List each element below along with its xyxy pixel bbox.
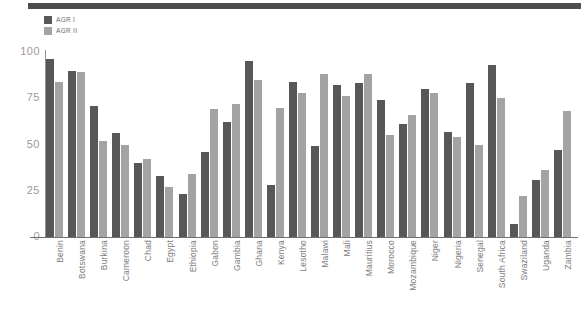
- bar-agr-1[interactable]: [112, 133, 120, 237]
- bar-agr-1[interactable]: [399, 124, 407, 237]
- x-axis-category-label: Mauritius: [364, 240, 374, 276]
- bar-group: [46, 52, 68, 237]
- bar-group: [245, 52, 267, 237]
- x-axis-category-label: Uganda: [541, 240, 551, 271]
- chart-legend: AGR I AGR II: [44, 15, 77, 35]
- bar-group: [267, 52, 289, 237]
- bar-agr-1[interactable]: [488, 65, 496, 237]
- bar-group: [179, 52, 201, 237]
- bar-agr-1[interactable]: [421, 89, 429, 237]
- legend-item-agr-1: AGR I: [44, 15, 77, 24]
- bar-agr-2[interactable]: [541, 170, 549, 237]
- bar-group: [333, 52, 355, 237]
- bar-agr-2[interactable]: [77, 72, 85, 237]
- bar-agr-2[interactable]: [563, 111, 571, 237]
- bar-agr-2[interactable]: [453, 137, 461, 237]
- x-axis-category-label: Mozambique: [408, 240, 418, 291]
- bar-groups-container: [46, 52, 576, 237]
- x-axis-category-label: Chad: [143, 240, 153, 261]
- bar-agr-2[interactable]: [143, 159, 151, 237]
- x-axis-category-label: Niger: [430, 240, 440, 261]
- bar-group: [377, 52, 399, 237]
- bar-agr-1[interactable]: [510, 224, 518, 237]
- bar-group: [289, 52, 311, 237]
- bar-agr-2[interactable]: [342, 96, 350, 237]
- bar-agr-2[interactable]: [254, 80, 262, 237]
- bar-group: [421, 52, 443, 237]
- legend-swatch-icon: [44, 27, 52, 35]
- bar-agr-2[interactable]: [497, 98, 505, 237]
- bar-group: [112, 52, 134, 237]
- y-axis-tick-label: 25: [27, 185, 40, 196]
- x-axis-category-label: Senegal: [475, 240, 485, 273]
- bar-agr-2[interactable]: [276, 108, 284, 238]
- x-axis-category-label: Ethiopia: [188, 240, 198, 272]
- bar-agr-2[interactable]: [364, 74, 372, 237]
- x-axis-category-labels: BeninBotswanaBurkinaCameroonChadEgyptEth…: [46, 240, 576, 320]
- bar-agr-2[interactable]: [430, 93, 438, 237]
- bar-agr-1[interactable]: [355, 83, 363, 237]
- bar-agr-1[interactable]: [554, 150, 562, 237]
- bar-group: [532, 52, 554, 237]
- bar-agr-1[interactable]: [267, 185, 275, 237]
- x-axis-category-label: Zambia: [563, 240, 573, 270]
- bar-agr-1[interactable]: [377, 100, 385, 237]
- bar-agr-2[interactable]: [232, 104, 240, 237]
- bar-agr-2[interactable]: [121, 145, 129, 238]
- bar-group: [90, 52, 112, 237]
- y-axis-tick-label: 100: [20, 46, 40, 57]
- bar-agr-1[interactable]: [46, 59, 54, 237]
- bar-agr-1[interactable]: [333, 85, 341, 237]
- bar-group: [223, 52, 245, 237]
- top-divider-rule: [28, 3, 581, 9]
- bar-agr-1[interactable]: [90, 106, 98, 237]
- bar-agr-2[interactable]: [408, 115, 416, 237]
- bar-agr-2[interactable]: [99, 141, 107, 237]
- bar-agr-1[interactable]: [245, 61, 253, 237]
- bar-agr-2[interactable]: [519, 196, 527, 237]
- bar-agr-2[interactable]: [475, 145, 483, 238]
- bar-agr-1[interactable]: [156, 176, 164, 237]
- bar-agr-2[interactable]: [298, 93, 306, 237]
- bar-agr-1[interactable]: [223, 122, 231, 237]
- bar-group: [355, 52, 377, 237]
- x-axis-category-label: Ghana: [254, 240, 264, 267]
- bar-group: [156, 52, 178, 237]
- y-axis-tick-labels: 1007550250: [0, 0, 40, 323]
- bar-agr-2[interactable]: [188, 174, 196, 237]
- bar-agr-1[interactable]: [68, 71, 76, 238]
- bar-agr-2[interactable]: [386, 135, 394, 237]
- x-axis-category-label: Gabon: [210, 240, 220, 267]
- x-axis-category-label: Malawi: [320, 240, 330, 268]
- bar-agr-2[interactable]: [320, 74, 328, 237]
- bar-agr-1[interactable]: [134, 163, 142, 237]
- x-axis-line: [30, 237, 578, 238]
- bar-group: [510, 52, 532, 237]
- y-axis-tick-label: 50: [27, 139, 40, 150]
- bar-agr-1[interactable]: [532, 180, 540, 237]
- chart-figure: AGR I AGR II 1007550250 BeninBotswanaBur…: [0, 0, 584, 323]
- legend-swatch-icon: [44, 16, 52, 24]
- bar-group: [68, 52, 90, 237]
- x-axis-category-label: Lesotho: [298, 240, 308, 272]
- x-axis-category-label: Swaziland: [519, 240, 529, 281]
- bar-agr-1[interactable]: [179, 194, 187, 237]
- bar-agr-2[interactable]: [55, 82, 63, 237]
- x-axis-category-label: Egypt: [165, 240, 175, 263]
- bar-agr-1[interactable]: [311, 146, 319, 237]
- bar-agr-1[interactable]: [444, 132, 452, 237]
- bar-agr-1[interactable]: [289, 82, 297, 237]
- x-axis-category-label: Kenya: [276, 240, 286, 265]
- bar-agr-2[interactable]: [210, 109, 218, 237]
- bar-agr-1[interactable]: [466, 83, 474, 237]
- bar-group: [488, 52, 510, 237]
- bar-group: [399, 52, 421, 237]
- bar-agr-2[interactable]: [165, 187, 173, 237]
- x-axis-category-label: Botswana: [77, 240, 87, 279]
- bar-group: [554, 52, 576, 237]
- bar-group: [444, 52, 466, 237]
- x-axis-category-label: South Africa: [497, 240, 507, 288]
- bar-group: [466, 52, 488, 237]
- bar-agr-1[interactable]: [201, 152, 209, 237]
- x-axis-category-label: Nigeria: [453, 240, 463, 268]
